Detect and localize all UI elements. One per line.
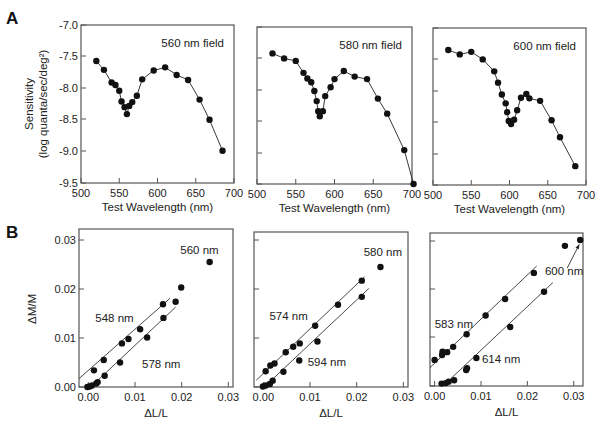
- y-label-line1: Sensitivity: [23, 78, 35, 130]
- data-point: [160, 315, 166, 321]
- data-point: [375, 95, 381, 101]
- x-tick-label: 600: [500, 189, 518, 201]
- data-point: [160, 301, 166, 307]
- panel-b1: 0.000.010.020.030.000.010.020.03ΔL/L548 …: [55, 229, 239, 419]
- fit-line: [443, 283, 553, 386]
- data-point: [173, 72, 179, 78]
- data-point: [311, 88, 317, 94]
- data-point: [410, 181, 416, 187]
- data-point: [468, 49, 474, 55]
- data-point: [457, 51, 463, 57]
- data-point: [91, 367, 97, 373]
- data-point: [134, 93, 140, 99]
- panel-b3: 0.000.010.020.03ΔL/L583 nm614 nm600 nm: [424, 233, 585, 418]
- x-tick-label: 0.02: [517, 390, 538, 402]
- data-point: [178, 284, 184, 290]
- x-tick-label: 500: [248, 188, 266, 200]
- data-point: [124, 111, 130, 117]
- data-point: [280, 369, 286, 375]
- x-tick-label: 700: [225, 187, 243, 199]
- data-point: [499, 91, 505, 97]
- panel-a1: 500550600650700-7.0-7.5-8.0-8.5-9.0-9.5T…: [59, 19, 243, 213]
- data-point: [139, 76, 145, 82]
- x-tick-label: 0.02: [171, 391, 192, 403]
- data-point: [341, 68, 347, 74]
- data-point: [444, 349, 450, 355]
- data-point: [101, 373, 107, 379]
- y-tick-label: 0.02: [55, 283, 76, 295]
- panel-letter-a: A: [6, 9, 18, 28]
- y-tick-label: -9.0: [59, 145, 78, 157]
- data-point: [464, 365, 470, 371]
- series-label: 600 nm: [545, 265, 583, 277]
- data-point: [283, 349, 289, 355]
- data-point: [504, 109, 510, 115]
- data-point: [172, 299, 178, 305]
- x-axis-label: ΔL/L: [495, 406, 519, 418]
- sensitivity-curve: [96, 61, 222, 151]
- sensitivity-curve: [448, 50, 575, 166]
- series-label: 580 nm: [364, 246, 402, 258]
- figure: A B Sensitivity (log quanta/sec/deg²) ΔM…: [0, 0, 602, 433]
- panel-b2: 0.000.010.020.03ΔL/L574 nm594 nm580 nm: [253, 232, 414, 419]
- panel-a3: 500550600650700Test Wavelength (nm)600 n…: [424, 28, 595, 215]
- x-tick-label: 650: [539, 189, 557, 201]
- data-point: [162, 64, 168, 70]
- x-tick-label: 0.00: [424, 390, 445, 402]
- data-point: [577, 237, 583, 243]
- data-point: [313, 98, 319, 104]
- series-label: 560 nm: [180, 244, 218, 256]
- data-point: [269, 377, 275, 383]
- y-label-line2: (log quanta/sec/deg²): [37, 49, 49, 158]
- data-point: [491, 68, 497, 74]
- data-point: [93, 58, 99, 64]
- x-axis-label: ΔL/L: [319, 407, 343, 419]
- x-tick-label: 550: [287, 188, 305, 200]
- series-label: 574 nm: [269, 310, 307, 322]
- data-point: [206, 117, 212, 123]
- data-point: [117, 359, 123, 365]
- data-point: [401, 147, 407, 153]
- x-tick-label: 550: [462, 189, 480, 201]
- x-tick-label: 0.01: [124, 391, 145, 403]
- data-point: [314, 338, 320, 344]
- data-point: [150, 67, 156, 73]
- sensitivity-y-axis-label: Sensitivity (log quanta/sec/deg²): [23, 49, 49, 158]
- data-point: [118, 98, 124, 104]
- data-point: [290, 344, 296, 350]
- data-point: [480, 56, 486, 62]
- data-point: [562, 243, 568, 249]
- data-point: [308, 79, 314, 85]
- data-point: [548, 117, 554, 123]
- data-point: [94, 379, 100, 385]
- y-tick-label: -9.5: [59, 177, 78, 189]
- data-point: [262, 368, 268, 374]
- x-tick-label: 0.02: [346, 391, 367, 403]
- data-point: [219, 148, 225, 154]
- data-point: [144, 334, 150, 340]
- data-point: [322, 93, 328, 99]
- field-annotation: 560 nm field: [161, 37, 224, 49]
- panel-letter-b: B: [6, 223, 18, 242]
- data-point: [359, 277, 365, 283]
- x-tick-label: 700: [577, 189, 595, 201]
- data-point: [511, 116, 517, 122]
- data-point: [269, 50, 275, 56]
- series-label: 548 nm: [95, 312, 133, 324]
- x-axis-label: Test Wavelength (nm): [102, 201, 214, 213]
- x-tick-label: 0.00: [253, 391, 274, 403]
- x-axis-label: ΔL/L: [144, 407, 168, 419]
- data-point: [101, 357, 107, 363]
- panel-a2: 500550600650700Test Wavelength (nm)580 n…: [248, 27, 421, 214]
- data-point: [364, 76, 370, 82]
- y-tick-label: -7.0: [59, 19, 78, 31]
- data-point: [445, 47, 451, 53]
- data-point: [293, 58, 299, 64]
- data-point: [482, 312, 488, 318]
- data-point: [112, 82, 118, 88]
- x-tick-label: 0.01: [470, 390, 491, 402]
- x-tick-label: 550: [110, 187, 128, 199]
- data-point: [572, 163, 578, 169]
- x-tick-label: 600: [325, 188, 343, 200]
- x-tick-label: 0.03: [563, 390, 584, 402]
